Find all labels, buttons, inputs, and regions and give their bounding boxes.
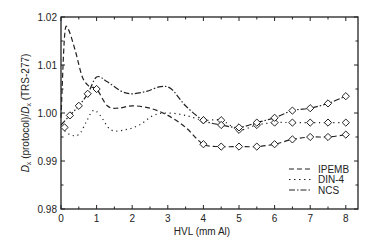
x-tick-label: 2 bbox=[129, 213, 135, 224]
diamond-marker bbox=[253, 143, 260, 150]
series-lines bbox=[61, 26, 346, 147]
diamond-marker bbox=[218, 143, 225, 150]
x-tick-label: 7 bbox=[307, 213, 313, 224]
diamond-marker bbox=[218, 121, 225, 128]
plot-border bbox=[61, 17, 358, 209]
y-tick-label: 1.02 bbox=[38, 12, 58, 23]
diamond-marker bbox=[200, 117, 207, 124]
diamond-marker bbox=[324, 119, 331, 126]
diamond-marker bbox=[342, 119, 349, 126]
y-tick-label: 0.99 bbox=[38, 156, 58, 167]
diamond-marker bbox=[93, 85, 100, 92]
series-markers bbox=[61, 85, 349, 150]
chart: 012345678 0.980.991.001.011.02 HVL (mm A… bbox=[0, 0, 387, 245]
diamond-marker bbox=[289, 136, 296, 143]
plot-frame bbox=[61, 17, 358, 209]
y-tick-label: 1.00 bbox=[38, 108, 58, 119]
diamond-marker bbox=[307, 133, 314, 140]
y-tick-label: 0.98 bbox=[38, 204, 58, 215]
diamond-marker bbox=[271, 114, 278, 121]
diamond-marker bbox=[289, 119, 296, 126]
legend-label: NCS bbox=[318, 185, 339, 196]
y-axis-title: Dx (protocol)/Dx (TRS-277) bbox=[20, 54, 32, 173]
x-tick-label: 6 bbox=[272, 213, 278, 224]
legend-label: IPEMB bbox=[318, 164, 349, 175]
diamond-marker bbox=[307, 105, 314, 112]
diamond-marker bbox=[61, 124, 68, 131]
legend-item-din-4: DIN-4 bbox=[289, 174, 345, 185]
series-line-ipemb bbox=[61, 26, 346, 147]
x-tick-label: 1 bbox=[94, 213, 100, 224]
y-tick-label: 1.01 bbox=[38, 60, 58, 71]
legend-item-ncs: NCS bbox=[289, 185, 339, 196]
x-axis-title: HVL (mm Al) bbox=[174, 226, 230, 237]
diamond-marker bbox=[271, 141, 278, 148]
x-tick-label: 3 bbox=[165, 213, 171, 224]
x-tick-label: 5 bbox=[236, 213, 242, 224]
x-tick-label: 0 bbox=[58, 213, 64, 224]
diamond-marker bbox=[342, 93, 349, 100]
x-tick-label: 4 bbox=[201, 213, 207, 224]
y-axis: 0.980.991.001.011.02 bbox=[38, 12, 358, 215]
legend: IPEMBDIN-4NCS bbox=[289, 164, 349, 196]
diamond-marker bbox=[235, 143, 242, 150]
x-tick-label: 8 bbox=[343, 213, 349, 224]
legend-label: DIN-4 bbox=[318, 174, 345, 185]
diamond-marker bbox=[289, 107, 296, 114]
diamond-marker bbox=[200, 141, 207, 148]
diamond-marker bbox=[324, 100, 331, 107]
diamond-marker bbox=[307, 119, 314, 126]
diamond-marker bbox=[342, 131, 349, 138]
diamond-marker bbox=[75, 102, 82, 109]
diamond-marker bbox=[324, 133, 331, 140]
legend-item-ipemb: IPEMB bbox=[289, 164, 349, 175]
diamond-marker bbox=[84, 90, 91, 97]
